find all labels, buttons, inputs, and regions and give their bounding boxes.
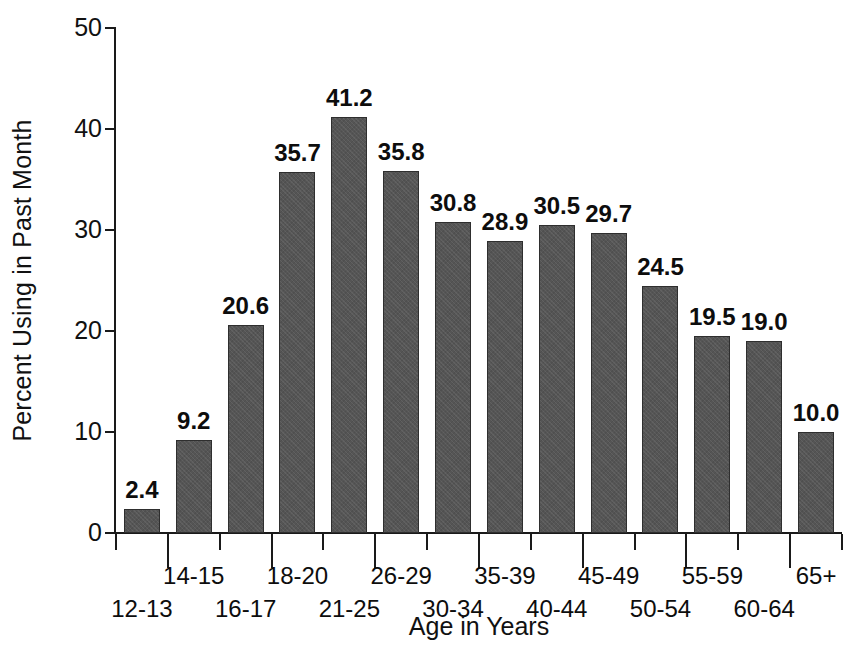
bar-group: 28.9 xyxy=(479,28,531,533)
bar[interactable] xyxy=(279,172,315,533)
bar-value-label: 30.5 xyxy=(533,194,580,218)
bar-value-label: 35.8 xyxy=(378,140,425,164)
x-axis-tick-mark xyxy=(530,534,532,550)
y-axis-tick-label: 30 xyxy=(50,217,102,242)
bar[interactable] xyxy=(176,440,212,533)
x-axis-tick-mark xyxy=(426,534,428,550)
bar-chart: Percent Using in Past Month 01020304050 … xyxy=(0,0,858,657)
y-axis-tick-mark xyxy=(105,27,116,29)
y-axis-tick-label: 10 xyxy=(50,419,102,444)
bar-value-label: 35.7 xyxy=(274,141,321,165)
bar[interactable] xyxy=(591,233,627,533)
bar[interactable] xyxy=(383,171,419,533)
y-axis-tick-mark xyxy=(105,532,116,534)
bar[interactable] xyxy=(798,432,834,533)
bar[interactable] xyxy=(228,325,264,533)
bar-value-label: 24.5 xyxy=(637,255,684,279)
bar-value-label: 2.4 xyxy=(125,478,158,502)
y-axis-tick-label: 40 xyxy=(50,116,102,141)
bar-group: 41.2 xyxy=(323,28,375,533)
bar-group: 30.5 xyxy=(531,28,583,533)
bar-group: 9.2 xyxy=(168,28,220,533)
bar-value-label: 19.5 xyxy=(689,305,736,329)
bar-group: 24.5 xyxy=(635,28,687,533)
bar[interactable] xyxy=(642,286,678,533)
y-axis-tick-label: 50 xyxy=(50,15,102,40)
x-axis-category-label: 55-59 xyxy=(682,564,743,588)
x-axis-tick-mark xyxy=(115,534,117,550)
x-axis-category-label: 35-39 xyxy=(474,564,535,588)
x-axis-category-label: 14-15 xyxy=(163,564,224,588)
y-axis-tick-label: 20 xyxy=(50,318,102,343)
bar-value-label: 41.2 xyxy=(326,86,373,110)
bar-group: 30.8 xyxy=(427,28,479,533)
x-axis-category-label: 45-49 xyxy=(578,564,639,588)
y-axis-title-text: Percent Using in Past Month xyxy=(8,119,37,441)
x-axis-tick-mark xyxy=(634,534,636,550)
bar-group: 29.7 xyxy=(583,28,635,533)
x-axis-category-label: 18-20 xyxy=(267,564,328,588)
x-axis-category-label: 26-29 xyxy=(371,564,432,588)
x-axis-tick-mark xyxy=(841,534,843,550)
y-axis-tick-mark xyxy=(105,431,116,433)
y-axis-title: Percent Using in Past Month xyxy=(0,0,44,560)
y-axis-tick-mark xyxy=(105,330,116,332)
bar-value-label: 19.0 xyxy=(741,310,788,334)
bar-value-label: 28.9 xyxy=(482,210,529,234)
y-axis-tick-labels: 01020304050 xyxy=(46,0,102,657)
x-axis-tick-mark xyxy=(789,534,791,568)
bar-group: 10.0 xyxy=(790,28,842,533)
bar[interactable] xyxy=(746,341,782,533)
x-axis-title: Age in Years xyxy=(116,612,842,641)
bar-group: 2.4 xyxy=(116,28,168,533)
bar[interactable] xyxy=(487,241,523,533)
bar-group: 35.7 xyxy=(272,28,324,533)
x-axis-category-label: 65+ xyxy=(796,564,837,588)
x-axis-tick-mark xyxy=(737,534,739,550)
bar[interactable] xyxy=(331,117,367,533)
x-axis-tick-mark xyxy=(322,534,324,550)
x-axis-tick-labels: 12-1314-1516-1718-2021-2526-2930-3435-39… xyxy=(116,534,842,614)
bar-value-label: 10.0 xyxy=(793,401,840,425)
bar[interactable] xyxy=(124,509,160,533)
plot-area: 2.49.220.635.741.235.830.828.930.529.724… xyxy=(116,28,842,533)
bar-group: 20.6 xyxy=(220,28,272,533)
bar[interactable] xyxy=(539,225,575,533)
bar-value-label: 30.8 xyxy=(430,191,477,215)
bar-value-label: 9.2 xyxy=(177,409,210,433)
bar-value-label: 29.7 xyxy=(585,202,632,226)
y-axis-tick-mark xyxy=(105,229,116,231)
y-axis-tick-label: 0 xyxy=(50,520,102,545)
x-axis-tick-mark xyxy=(219,534,221,550)
bar-value-label: 20.6 xyxy=(222,294,269,318)
y-axis-tick-mark xyxy=(105,128,116,130)
bar[interactable] xyxy=(435,222,471,533)
bar-group: 19.5 xyxy=(686,28,738,533)
bar-group: 19.0 xyxy=(738,28,790,533)
bar-group: 35.8 xyxy=(375,28,427,533)
bar[interactable] xyxy=(694,336,730,533)
